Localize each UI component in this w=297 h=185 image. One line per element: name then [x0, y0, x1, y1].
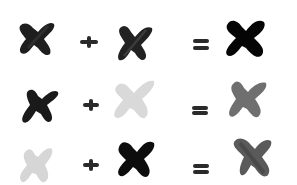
- equals-icon: [193, 160, 209, 178]
- x-mark-icon: [16, 18, 56, 58]
- x-mark-icon: [18, 143, 54, 185]
- equation-row-3: [0, 125, 297, 185]
- x-mark-icon: [116, 137, 156, 179]
- plus-icon: [83, 97, 99, 115]
- equals-icon: [193, 36, 209, 54]
- x-mark-icon: [116, 22, 154, 62]
- x-mark-icon: [20, 87, 60, 125]
- equation-row-1: [0, 0, 297, 60]
- plus-icon: [83, 157, 99, 175]
- equals-icon: [192, 101, 208, 119]
- x-mark-icon: [232, 135, 274, 179]
- equation-row-2: [0, 65, 297, 125]
- x-mark-icon: [112, 77, 156, 121]
- x-mark-icon: [227, 78, 269, 120]
- plus-icon: [80, 34, 98, 52]
- x-mark-icon: [224, 16, 268, 60]
